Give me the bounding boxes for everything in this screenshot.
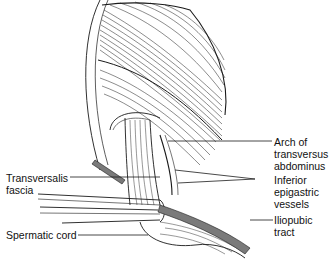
label-spermatic-cord: Spermatic cord xyxy=(6,229,77,241)
label-arch-of-transversus-abdominus: Arch of transversus abdominus xyxy=(274,136,328,172)
label-transversalis-fascia: Transversalis fascia xyxy=(6,172,68,196)
epigastric-leader-line-1 xyxy=(175,170,255,179)
anatomy-diagram: Arch of transversus abdominus Inferior e… xyxy=(0,0,331,259)
label-iliopubic-tract: Iliopubic tract xyxy=(274,214,313,238)
label-inferior-epigastric-vessels: Inferior epigastric vessels xyxy=(274,174,319,210)
epigastric-leader-line-2 xyxy=(178,179,255,183)
